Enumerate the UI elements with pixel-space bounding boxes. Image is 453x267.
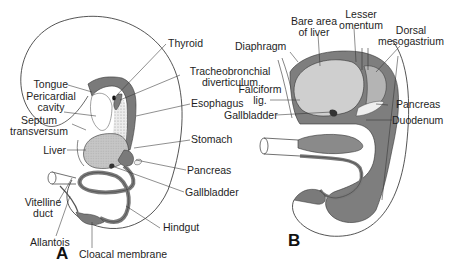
label-falciform-ligament: Falciform lig. — [232, 84, 288, 106]
label-liver: Liver — [20, 145, 66, 156]
panel-b-artwork — [260, 28, 409, 236]
label-cloacal-membrane: Cloacal membrane — [79, 249, 167, 260]
panel-letter-a: A — [56, 244, 68, 264]
label-pericardial-cavity: Pericardial cavity — [20, 91, 82, 113]
label-septum-transversum: Septum transversum — [6, 115, 72, 137]
label-pancreas-a: Pancreas — [187, 165, 231, 176]
label-gallbladder-a: Gallbladder — [185, 187, 239, 198]
embryo-gut-diagram: Thyroid Tracheobronchial diverticulum To… — [0, 0, 453, 267]
label-diaphragm: Diaphragm — [235, 41, 286, 52]
label-pancreas-b: Pancreas — [396, 99, 440, 110]
label-hindgut: Hindgut — [163, 222, 199, 233]
label-gallbladder-b: Gallbladder — [224, 110, 278, 121]
label-dorsal-mesogastrium: Dorsal mesogastrium — [373, 25, 449, 47]
label-vitelline-duct: Vitelline duct — [20, 197, 66, 219]
label-duodenum: Duodenum — [392, 115, 443, 126]
label-stomach-a: Stomach — [191, 134, 232, 145]
label-thyroid: Thyroid — [168, 38, 203, 49]
label-bare-area-of-liver: Bare area of liver — [286, 16, 342, 38]
label-tongue: Tongue — [22, 79, 68, 90]
panel-letter-b: B — [288, 231, 300, 251]
